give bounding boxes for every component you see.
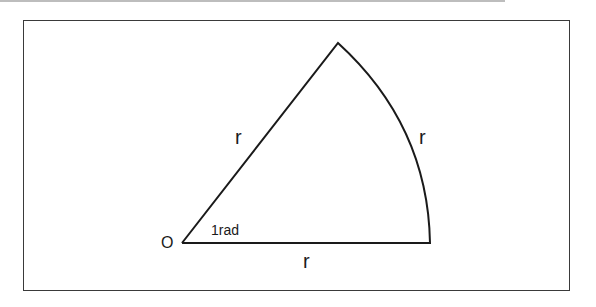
label-angle: 1rad (211, 223, 239, 237)
sector-drawing (0, 0, 596, 307)
label-radius-base: r (303, 251, 310, 271)
sector-outline (182, 43, 430, 243)
label-origin: O (161, 235, 173, 251)
label-arc-length: r (419, 127, 426, 147)
label-radius-slanted: r (235, 127, 242, 147)
